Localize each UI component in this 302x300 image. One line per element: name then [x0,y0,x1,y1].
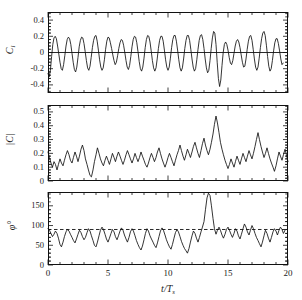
panel-cl-plot [48,12,288,93]
x-axis-label: t/Ts [48,283,288,295]
y-tick-label: -0.4 [4,79,44,89]
y-tick-label: 0.2 [4,31,44,41]
x-tick-label: 5 [93,268,123,278]
y-tick-label: 0.4 [4,15,44,25]
panel-phase-plot [48,192,288,265]
x-tick-label: 10 [153,268,183,278]
panel-cl-trace [48,31,283,86]
y-tick-label: 50 [4,240,44,250]
panel-abs-cl-plot [48,105,288,181]
y-tick-label: 0.5 [4,106,44,116]
figure-container: Cl |C| φ° t/Ts -0.4-0.200 [0,0,302,300]
panel-abs-cl-trace [48,116,288,177]
y-tick-label: 0.1 [4,162,44,172]
panel-phase-ticks [48,192,288,265]
panel-phase-trace [48,193,285,253]
y-tick-label: 100 [4,220,44,230]
y-tick-label: 0.2 [4,148,44,158]
y-tick-label: 0.3 [4,134,44,144]
y-tick-label: 150 [4,200,44,210]
x-tick-label: 0 [33,268,63,278]
x-tick-label: 20 [273,268,302,278]
y-tick-label: 0 [4,176,44,186]
x-tick-label: 15 [213,268,243,278]
y-tick-label: -0.2 [4,63,44,73]
y-tick-label: 0 [4,47,44,57]
panel-abs-cl-ticks [48,105,288,181]
y-tick-label: 0.4 [4,120,44,130]
